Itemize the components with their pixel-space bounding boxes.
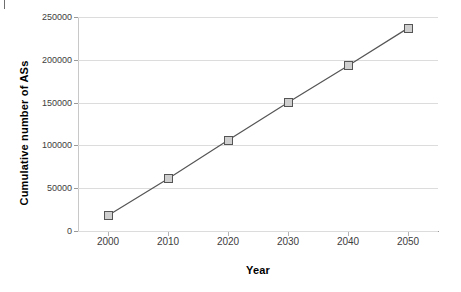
y-tick-label: 250000 xyxy=(6,12,72,22)
plot-area xyxy=(78,17,438,231)
y-tick-mark xyxy=(74,17,78,18)
x-tick-mark xyxy=(288,232,289,236)
gridline xyxy=(78,231,438,232)
x-tick-mark xyxy=(348,232,349,236)
series-polyline xyxy=(108,28,408,215)
y-tick-label: 0 xyxy=(6,226,72,236)
x-tick-mark xyxy=(228,232,229,236)
data-point-marker xyxy=(344,61,353,70)
data-point-marker xyxy=(224,136,233,145)
y-tick-mark xyxy=(74,103,78,104)
x-tick-label: 2050 xyxy=(373,236,443,247)
y-tick-label: 50000 xyxy=(6,183,72,193)
corner-tick-mark xyxy=(4,0,5,9)
y-tick-mark xyxy=(74,188,78,189)
x-tick-mark xyxy=(168,232,169,236)
data-point-marker xyxy=(284,98,293,107)
data-point-marker xyxy=(104,211,113,220)
y-tick-mark xyxy=(74,60,78,61)
y-axis-tick-labels: 050000100000150000200000250000 xyxy=(4,17,72,231)
y-tick-mark xyxy=(74,231,78,232)
data-point-marker xyxy=(404,24,413,33)
series-line xyxy=(78,17,438,231)
chart-figure: Cumulative number of ASs 050000100000150… xyxy=(0,0,461,292)
x-axis-title: Year xyxy=(78,264,438,276)
y-tick-label: 200000 xyxy=(6,55,72,65)
x-tick-mark xyxy=(108,232,109,236)
data-point-marker xyxy=(164,174,173,183)
x-tick-mark xyxy=(408,232,409,236)
y-tick-label: 150000 xyxy=(6,98,72,108)
y-tick-label: 100000 xyxy=(6,140,72,150)
y-tick-mark xyxy=(74,145,78,146)
